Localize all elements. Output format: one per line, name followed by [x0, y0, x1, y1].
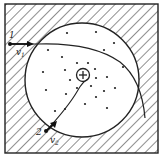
particle-1-label: 1 [9, 30, 15, 40]
particle-2-label: 2 [35, 127, 42, 137]
atom-scattering-diagram: 1 v1 2 v2 [0, 0, 162, 157]
